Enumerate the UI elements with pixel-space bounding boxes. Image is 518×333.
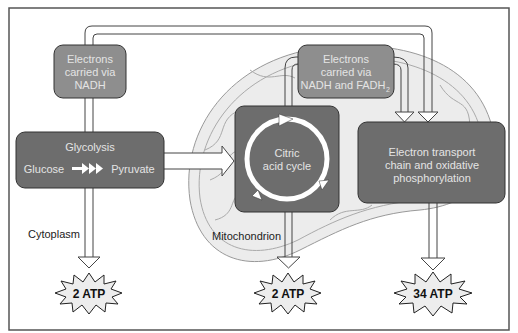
svg-text:34 ATP: 34 ATP <box>413 287 452 301</box>
electrons-nadh-box: Electrons carried via NADH <box>54 45 126 98</box>
svg-text:NADH and FADH: NADH and FADH <box>301 79 386 91</box>
svg-text:NADH: NADH <box>74 79 105 91</box>
svg-text:acid cycle: acid cycle <box>263 160 311 172</box>
cellular-respiration-diagram: Electrons carried via NADH Glycolysis Gl… <box>0 0 518 333</box>
svg-text:carried via: carried via <box>321 66 373 78</box>
svg-text:Electron transport: Electron transport <box>389 146 476 158</box>
svg-text:Citric: Citric <box>274 147 300 159</box>
svg-text:Pyruvate: Pyruvate <box>111 163 154 175</box>
electron-transport-chain-box: Electron transport chain and oxidative p… <box>358 122 505 203</box>
svg-text:Glucose: Glucose <box>24 163 64 175</box>
svg-text:Electrons: Electrons <box>67 53 113 65</box>
cytoplasm-label: Cytoplasm <box>28 228 80 240</box>
svg-text:2: 2 <box>386 86 390 93</box>
glycolysis-box: Glycolysis Glucose Pyruvate <box>16 132 164 188</box>
svg-text:carried via: carried via <box>65 66 117 78</box>
svg-text:chain and oxidative: chain and oxidative <box>385 159 479 171</box>
svg-text:Glycolysis: Glycolysis <box>65 141 115 153</box>
svg-text:2 ATP: 2 ATP <box>272 287 305 301</box>
svg-text:2 ATP: 2 ATP <box>73 287 106 301</box>
svg-text:Electrons: Electrons <box>323 53 369 65</box>
mitochondrion-label: Mitochondrion <box>212 230 281 242</box>
citric-acid-cycle-box: Citric acid cycle <box>235 106 339 212</box>
electrons-nadh-fadh-box: Electrons carried via NADH and FADH 2 <box>298 45 394 98</box>
svg-text:phosphorylation: phosphorylation <box>393 172 471 184</box>
